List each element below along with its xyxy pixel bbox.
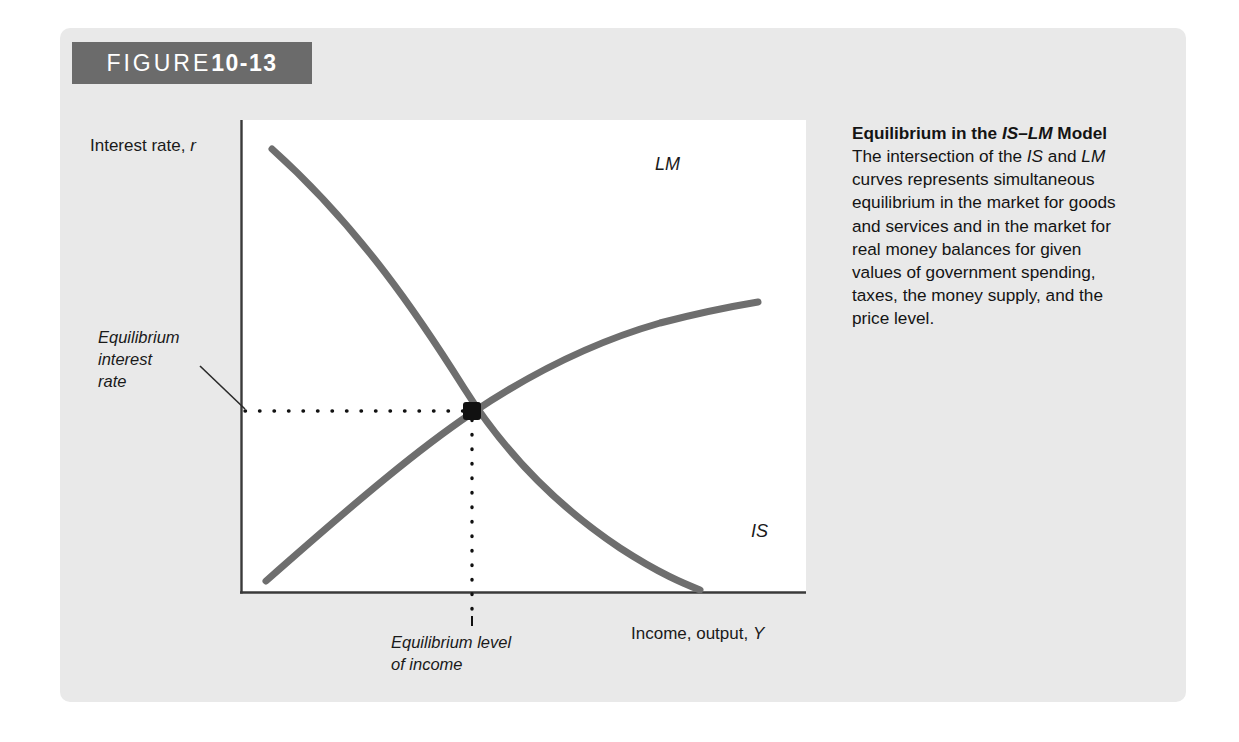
equilibrium-income-line-2: of income	[391, 654, 511, 676]
figure-caption: Equilibrium in the IS–LM Model The inter…	[852, 122, 1124, 330]
equilibrium-interest-rate-annotation: Equilibrium interest rate	[98, 327, 180, 393]
y-axis-label-variable: r	[190, 136, 196, 155]
equilibrium-rate-line-3: rate	[98, 371, 180, 393]
caption-body-part2: and	[1043, 146, 1081, 166]
caption-heading-italic: IS–LM	[1002, 123, 1053, 143]
caption-body-is: IS	[1027, 146, 1043, 166]
x-axis-label-variable: Y	[753, 624, 764, 643]
caption-body-lm: LM	[1081, 146, 1105, 166]
caption-heading-second: Model	[1057, 123, 1107, 143]
x-axis-label: Income, output, Y	[631, 624, 764, 644]
equilibrium-point-marker	[463, 402, 481, 420]
equilibrium-rate-leader-line	[200, 366, 245, 409]
caption-heading: Equilibrium in the IS–LM Model	[852, 123, 1107, 143]
chart-region: Interest rate, r Income, output, Y Equil…	[60, 28, 850, 702]
lm-curve-label: LM	[655, 154, 680, 175]
equilibrium-rate-line-1: Equilibrium	[98, 327, 180, 349]
equilibrium-level-of-income-annotation: Equilibrium level of income	[391, 632, 511, 676]
x-axis-label-text: Income, output,	[631, 624, 753, 643]
y-axis-label: Interest rate, r	[90, 136, 196, 156]
is-curve	[266, 302, 758, 581]
caption-heading-plain: Equilibrium in the	[852, 123, 1002, 143]
caption-body-part1: The intersection of the	[852, 146, 1027, 166]
y-axis-label-text: Interest rate,	[90, 136, 190, 155]
equilibrium-rate-line-2: interest	[98, 349, 180, 371]
caption-body: The intersection of the IS and LM curves…	[852, 146, 1116, 328]
is-curve-label: IS	[751, 521, 768, 542]
equilibrium-income-line-1: Equilibrium level	[391, 632, 511, 654]
figure-screenshot: FIGURE10-13	[0, 0, 1239, 742]
figure-card: FIGURE10-13	[60, 28, 1186, 702]
caption-body-part3: curves represents simultaneous equilibri…	[852, 169, 1116, 328]
